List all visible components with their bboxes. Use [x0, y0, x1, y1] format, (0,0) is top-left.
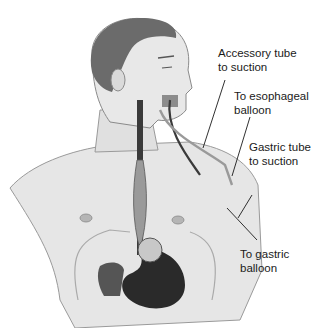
nipple-left: [80, 214, 92, 222]
liver: [98, 263, 124, 296]
leader-accessory: [203, 80, 225, 148]
label-esophageal-balloon: To esophageal balloon: [234, 89, 309, 117]
nipple-right: [172, 216, 184, 224]
diagram-canvas: Accessory tube to suction To esophageal …: [0, 0, 321, 328]
gastric-balloon: [138, 238, 162, 262]
ear: [111, 69, 125, 91]
label-accessory-tube: Accessory tube to suction: [218, 46, 297, 74]
label-gastric-tube: Gastric tube to suction: [249, 140, 311, 168]
label-gastric-balloon: To gastric balloon: [240, 247, 289, 275]
